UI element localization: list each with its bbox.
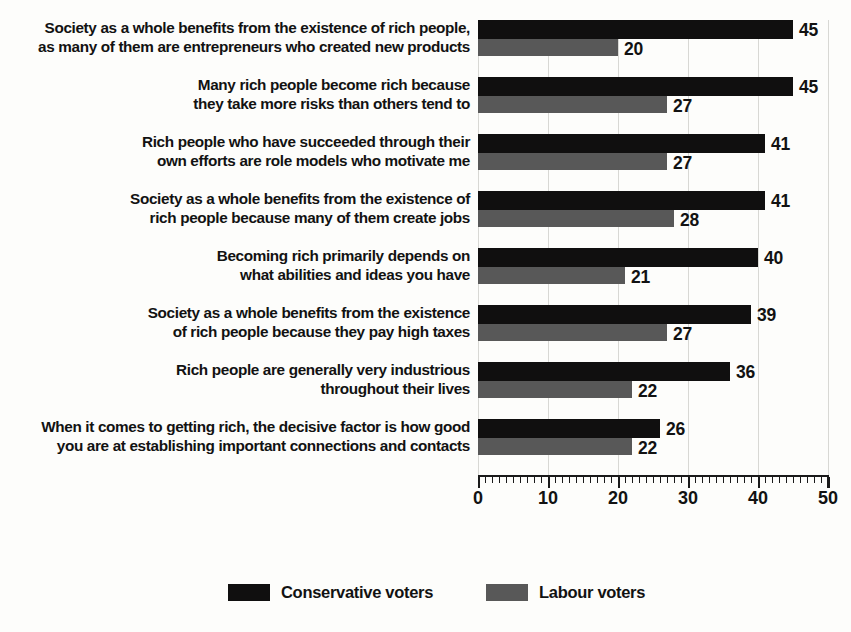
bar-group: 3927 xyxy=(478,305,828,341)
x-axis-minor-tick xyxy=(744,477,745,483)
x-axis-minor-tick xyxy=(681,477,682,483)
bar-chart: Society as a whole benefits from the exi… xyxy=(0,0,851,632)
category-label-line: Becoming rich primarily depends on xyxy=(10,247,470,266)
category-label-line: they take more risks than others tend to xyxy=(10,95,470,114)
bar-conservative xyxy=(478,248,758,267)
category-label: Rich people who have succeeded through t… xyxy=(10,133,478,170)
x-axis-minor-tick xyxy=(730,477,731,483)
bar-value-label-conservative: 41 xyxy=(771,193,790,211)
x-axis-tick-label: 30 xyxy=(678,488,698,509)
bar-value-label-labour: 27 xyxy=(673,326,692,344)
bar-value-label-conservative: 36 xyxy=(736,364,755,382)
bar-labour xyxy=(478,381,632,398)
x-axis-minor-tick xyxy=(527,477,528,483)
x-axis-minor-tick xyxy=(506,477,507,483)
x-axis-minor-tick xyxy=(590,477,591,483)
bar-labour xyxy=(478,324,667,341)
category-label: Many rich people become rich becausethey… xyxy=(10,76,478,113)
bar-value-label-labour: 28 xyxy=(680,212,699,230)
category-label-line: Society as a whole benefits from the exi… xyxy=(10,19,470,38)
x-axis-tick-labels: 01020304050 xyxy=(478,488,829,514)
legend-item-labour-voters[interactable]: Labour voters xyxy=(486,583,645,602)
legend-item-conservative-voters[interactable]: Conservative voters xyxy=(228,583,433,602)
category-label-line: Rich people are generally very industrio… xyxy=(10,361,470,380)
category-label-line: what abilities and ideas you have xyxy=(10,266,470,285)
x-axis-major-tick xyxy=(548,477,550,488)
legend-label-labour: Labour voters xyxy=(539,583,645,602)
bar-conservative xyxy=(478,362,730,381)
x-axis-minor-tick xyxy=(793,477,794,483)
x-axis-minor-tick xyxy=(814,477,815,483)
x-axis-tick-label: 40 xyxy=(748,488,768,509)
legend-swatch-icon-labour xyxy=(486,584,528,601)
category-label: When it comes to getting rich, the decis… xyxy=(10,418,478,455)
x-axis-minor-tick xyxy=(513,477,514,483)
legend-swatch-icon-conservative xyxy=(228,584,270,601)
x-axis-tick-label: 10 xyxy=(538,488,558,509)
x-axis-minor-tick xyxy=(653,477,654,483)
x-axis-minor-tick xyxy=(716,477,717,483)
bar-value-label-conservative: 39 xyxy=(757,307,776,325)
x-axis-end-cap xyxy=(827,475,829,488)
x-axis-minor-tick xyxy=(541,477,542,483)
category-label: Society as a whole benefits from the exi… xyxy=(10,304,478,341)
bar-labour xyxy=(478,153,667,170)
bar-labour xyxy=(478,267,625,284)
category-label-line: Rich people who have succeeded through t… xyxy=(10,133,470,152)
x-axis-minor-tick xyxy=(800,477,801,483)
x-axis-tick-label: 50 xyxy=(818,488,838,509)
legend-label-conservative: Conservative voters xyxy=(281,583,433,602)
bar-value-label-conservative: 45 xyxy=(799,22,818,40)
x-axis-minor-tick xyxy=(499,477,500,483)
bar-labour xyxy=(478,39,618,56)
x-axis-minor-tick xyxy=(562,477,563,483)
category-label-line: When it comes to getting rich, the decis… xyxy=(10,418,470,437)
x-axis-minor-tick xyxy=(625,477,626,483)
x-axis-tick-label: 20 xyxy=(608,488,628,509)
x-axis-minor-tick xyxy=(639,477,640,483)
category-label-line: throughout their lives xyxy=(10,380,470,399)
bar-value-label-labour: 22 xyxy=(638,383,657,401)
category-label: Society as a whole benefits from the exi… xyxy=(10,19,478,56)
x-axis-minor-tick xyxy=(709,477,710,483)
bar-conservative xyxy=(478,77,793,96)
x-axis-minor-tick xyxy=(485,477,486,483)
x-axis-minor-tick xyxy=(765,477,766,483)
category-label-line: Society as a whole benefits from the exi… xyxy=(10,304,470,323)
category-label: Becoming rich primarily depends onwhat a… xyxy=(10,247,478,284)
x-axis xyxy=(478,475,829,487)
chart-legend: Conservative voters Labour voters xyxy=(0,583,851,613)
x-axis-minor-tick xyxy=(667,477,668,483)
x-axis-minor-tick xyxy=(660,477,661,483)
x-axis-minor-tick xyxy=(751,477,752,483)
x-axis-minor-tick xyxy=(674,477,675,483)
bar-conservative xyxy=(478,191,765,210)
category-label-line: rich people because many of them create … xyxy=(10,209,470,228)
bar-group: 2622 xyxy=(478,419,828,455)
category-label-line: Many rich people become rich because xyxy=(10,76,470,95)
x-axis-minor-tick xyxy=(583,477,584,483)
plot-area: 45204527412741284021392736222622 xyxy=(478,20,828,475)
bar-labour xyxy=(478,210,674,227)
x-axis-minor-tick xyxy=(611,477,612,483)
x-axis-major-tick xyxy=(758,477,760,488)
x-axis-minor-tick xyxy=(702,477,703,483)
x-axis-minor-tick xyxy=(772,477,773,483)
category-label-line: own efforts are role models who motivate… xyxy=(10,152,470,171)
gridline xyxy=(828,20,829,475)
bar-value-label-conservative: 26 xyxy=(666,421,685,439)
x-axis-major-tick xyxy=(688,477,690,488)
category-label-line: you are at establishing important connec… xyxy=(10,437,470,456)
category-label-line: of rich people because they pay high tax… xyxy=(10,323,470,342)
bar-value-label-labour: 27 xyxy=(673,155,692,173)
category-label: Society as a whole benefits from the exi… xyxy=(10,190,478,227)
bar-group: 3622 xyxy=(478,362,828,398)
x-axis-minor-tick xyxy=(723,477,724,483)
x-axis-minor-tick xyxy=(807,477,808,483)
bar-conservative xyxy=(478,305,751,324)
x-axis-minor-tick xyxy=(576,477,577,483)
bar-conservative xyxy=(478,134,765,153)
x-axis-minor-tick xyxy=(632,477,633,483)
x-axis-minor-tick xyxy=(492,477,493,483)
bar-conservative xyxy=(478,20,793,39)
